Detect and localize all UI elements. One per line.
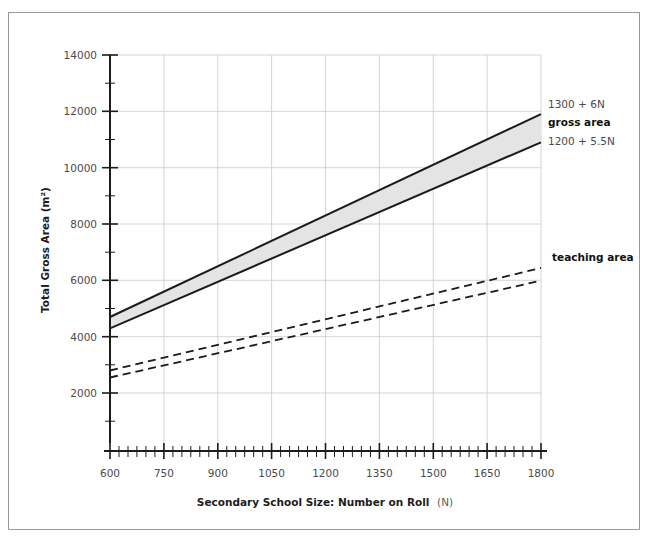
x-tick-label: 1800 [528, 467, 555, 479]
annotations: 1300 + 6N gross area 1200 + 5.5N teachin… [548, 98, 634, 263]
y-tick-label: 6000 [70, 274, 97, 286]
y-tick-label: 10000 [64, 162, 97, 174]
x-axis-title-suffix: (N) [437, 496, 453, 508]
x-axis-title: Secondary School Size: Number on Roll (N… [197, 496, 453, 508]
annotation-teaching-area-label: teaching area [552, 251, 634, 263]
x-tick-label: 1500 [420, 467, 447, 479]
y-tick-label: 14000 [64, 49, 97, 61]
x-tick-label: 600 [100, 467, 120, 479]
annotation-lower-formula: 1200 + 5.5N [548, 135, 615, 147]
x-tick-labels: 600 750 900 1050 1200 1350 1500 1650 180… [100, 467, 554, 479]
y-tick-label: 8000 [70, 218, 97, 230]
y-axis [102, 55, 118, 443]
y-tick-labels: 14000 12000 10000 8000 6000 4000 2000 [64, 49, 97, 399]
y-tick-label: 2000 [70, 387, 97, 399]
y-tick-label: 4000 [70, 331, 97, 343]
annotation-upper-formula: 1300 + 6N [548, 98, 605, 110]
x-tick-label: 1050 [258, 467, 285, 479]
x-axis-title-main: Secondary School Size: Number on Roll [197, 496, 430, 508]
y-tick-label: 12000 [64, 105, 97, 117]
vertical-gridlines [110, 55, 541, 451]
x-tick-label: 1200 [312, 467, 339, 479]
chart-figure: 14000 12000 10000 8000 6000 4000 2000 [0, 0, 650, 542]
x-tick-label: 1350 [366, 467, 393, 479]
y-axis-title: Total Gross Area (m²) [39, 187, 51, 313]
x-tick-label: 900 [208, 467, 228, 479]
x-tick-label: 750 [154, 467, 174, 479]
annotation-gross-area-label: gross area [548, 116, 611, 128]
chart-canvas: 14000 12000 10000 8000 6000 4000 2000 [0, 0, 650, 542]
x-tick-label: 1650 [474, 467, 501, 479]
x-axis [104, 443, 547, 459]
